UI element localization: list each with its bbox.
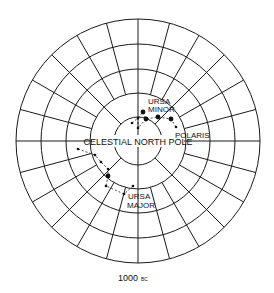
spoke: [162, 183, 199, 247]
star-icon: [100, 161, 103, 164]
ursa-major-label-line1: URSA: [128, 192, 151, 201]
star-icon: [169, 117, 174, 122]
spoke: [77, 35, 114, 99]
spoke: [52, 55, 121, 124]
star-icon: [77, 148, 80, 151]
star-chart: CELESTIAL NORTH POLE URSA MINOR POLARIS …: [0, 0, 274, 293]
star-icon: [156, 115, 161, 120]
star-icon: [131, 122, 134, 125]
spoke: [155, 158, 224, 227]
star-icon: [105, 185, 108, 188]
spoke: [150, 23, 169, 94]
spoke: [162, 35, 199, 99]
star-icon: [141, 110, 146, 115]
epoch-era: BC: [141, 276, 148, 282]
ursa-major-label-line2: MAJOR: [127, 201, 155, 210]
spoke: [106, 187, 125, 258]
star-icon: [132, 185, 135, 188]
star-icon: [107, 168, 110, 171]
spoke: [180, 165, 244, 202]
ursa-minor-label-line2: MINOR: [148, 105, 175, 114]
spoke: [20, 109, 91, 128]
spoke: [20, 153, 91, 172]
star-icon: [137, 127, 140, 130]
star-icon: [144, 117, 149, 122]
spoke: [106, 23, 125, 94]
spoke: [77, 183, 114, 247]
polaris-label: POLARIS: [175, 131, 210, 140]
epoch-year: 1000: [118, 273, 138, 283]
spoke: [180, 80, 244, 117]
spoke: [52, 158, 121, 227]
star-icon: [106, 174, 111, 179]
spoke: [32, 80, 96, 117]
spoke: [150, 187, 169, 258]
spoke: [184, 109, 255, 128]
star-icon: [175, 126, 178, 129]
star-icon: [137, 117, 140, 120]
spoke: [32, 165, 96, 202]
star-icon: [94, 154, 97, 157]
star-icon: [123, 193, 126, 196]
spoke: [184, 153, 255, 172]
